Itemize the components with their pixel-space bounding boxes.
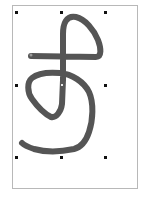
- resize-handle-top-left[interactable]: [15, 11, 18, 14]
- resize-handle-middle-left[interactable]: [15, 84, 18, 87]
- stroke-start-marker: [30, 54, 33, 57]
- resize-handle-bottom-left[interactable]: [15, 156, 18, 159]
- center-marker: [61, 84, 63, 86]
- resize-handle-top-right[interactable]: [104, 11, 107, 14]
- resize-handle-bottom-center[interactable]: [60, 156, 63, 159]
- resize-handle-top-center[interactable]: [60, 11, 63, 14]
- resize-handle-bottom-right[interactable]: [104, 156, 107, 159]
- freehand-stroke[interactable]: [0, 0, 149, 197]
- resize-handle-middle-right[interactable]: [104, 84, 107, 87]
